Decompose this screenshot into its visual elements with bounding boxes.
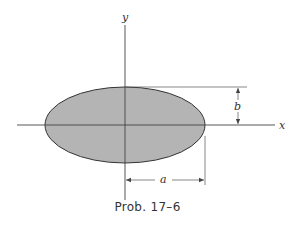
y-axis-label: y <box>121 11 129 24</box>
figure-caption: Prob. 17–6 <box>0 200 295 214</box>
ellipse-diagram: x y b a <box>0 0 295 230</box>
x-axis-label: x <box>279 119 286 132</box>
a-label: a <box>160 173 167 186</box>
b-label: b <box>234 100 241 113</box>
